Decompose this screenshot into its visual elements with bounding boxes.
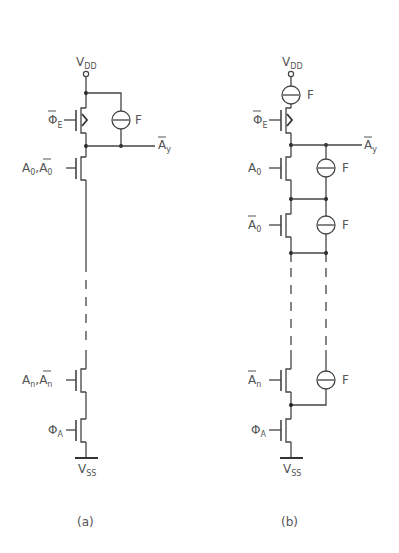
fuse-icon — [112, 111, 130, 129]
vdd-terminal-a — [83, 71, 88, 76]
vss-label-a: VSS — [78, 462, 96, 478]
fuse-icon — [317, 371, 335, 389]
gate-label-an-a: An,An — [22, 373, 52, 389]
caption-b: (b) — [281, 515, 298, 529]
gate-label-a0-bar-b: A0 — [248, 218, 261, 234]
transistor-a0-bar-b — [269, 214, 291, 237]
transistor-phi-e-b — [269, 108, 292, 133]
circuit-diagram: VDD F ΦE Ay A — [0, 0, 399, 553]
transistor-a0-b — [269, 157, 291, 180]
panel-b: VDD F ΦE Ay A0 — [248, 55, 377, 529]
vdd-label-b: VDD — [282, 55, 303, 71]
fuse-icon — [317, 216, 335, 234]
panel-a: VDD F ΦE Ay A — [22, 55, 171, 529]
fuse-label-b-top: F — [307, 88, 314, 102]
transistor-an-bar-b — [269, 369, 291, 392]
transistor-phi-a-a — [66, 419, 86, 442]
fuse-label-a: F — [135, 113, 142, 127]
transistor-an-a — [66, 369, 86, 392]
transistor-phi-a-b — [269, 419, 291, 442]
transistor-phi-e-a — [64, 108, 87, 133]
transistor-a0-a — [66, 157, 86, 180]
gate-label-a0-a: A0,A0 — [22, 161, 52, 177]
fuse-label-b-a0bar: F — [342, 218, 349, 232]
fuse-label-b-an: F — [342, 373, 349, 387]
phi-a-label-a: ΦA — [48, 423, 63, 439]
fuse-icon — [317, 159, 335, 177]
fuse-icon — [282, 86, 300, 104]
vdd-label-a: VDD — [76, 55, 97, 71]
fuse-label-b-a0: F — [342, 161, 349, 175]
gate-label-an-bar-b: An — [248, 373, 261, 389]
output-label-a: Ay — [158, 138, 171, 154]
phi-a-label-b: ΦA — [251, 423, 266, 439]
caption-a: (a) — [77, 515, 94, 529]
phi-e-label-b: ΦE — [253, 113, 268, 130]
vdd-terminal-b — [288, 71, 293, 76]
output-label-b: Ay — [364, 138, 377, 154]
gate-label-a0-b: A0 — [248, 161, 261, 177]
vss-label-b: VSS — [283, 462, 301, 478]
phi-e-label-a: ΦE — [48, 113, 63, 130]
